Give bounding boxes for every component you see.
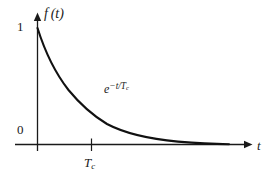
x-tick-label-tc: Tc — [84, 156, 95, 171]
y-tick-label-zero: 0 — [17, 123, 24, 136]
curve-annotation-exponent: −t/Tc — [109, 81, 129, 91]
figure-container: f (t) t 1 0 Tc e−t/Tc — [0, 0, 271, 183]
x-axis-arrowhead — [244, 141, 253, 148]
y-axis-label: f (t) — [44, 7, 64, 21]
curve-annotation-label: e−t/Tc — [104, 82, 129, 95]
curve-annotation-exponent-subscript: c — [126, 84, 129, 91]
y-tick-label-one: 1 — [17, 20, 24, 33]
x-tick-label-tc-subscript: c — [91, 161, 95, 171]
x-axis-label: t — [257, 139, 261, 152]
decay-curve — [38, 28, 230, 144]
y-axis-arrowhead — [34, 13, 41, 22]
curve-annotation-exponent-main: −t/T — [109, 81, 126, 91]
plot-canvas — [0, 0, 271, 183]
